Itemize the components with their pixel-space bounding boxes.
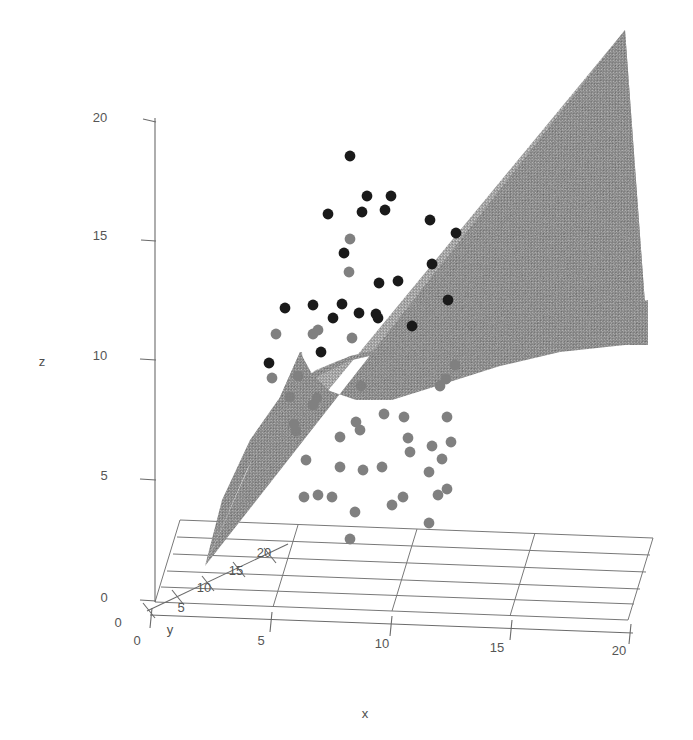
data-point [442,484,453,495]
y-tick-label: 20 [257,545,271,560]
y-tick-label: 5 [177,600,184,615]
data-point [427,259,438,270]
data-point [280,303,291,314]
data-point [398,492,409,503]
x-tick-label: 5 [257,633,264,648]
data-point [264,358,275,369]
z-tick-20 [143,119,156,122]
x-tick-5 [270,612,272,632]
x-tick-label: 20 [612,643,626,658]
data-point [291,426,302,437]
data-point [323,209,334,220]
data-point [328,313,339,324]
surface-lower-fold [205,30,648,566]
data-point [450,360,461,371]
z-tick-5 [140,479,156,480]
x-tick-label: 15 [490,640,504,655]
data-point [355,425,366,436]
data-point [424,467,435,478]
z-axis-title: z [39,354,46,369]
plot-root: 201510500510152005101520 z x y [0,0,693,740]
z-tick-0 [140,600,156,601]
data-point [437,454,448,465]
data-point [379,409,390,420]
data-point [335,432,346,443]
z-tick-label: 10 [93,348,107,363]
y-tick-label: 10 [197,580,211,595]
z-tick-15 [141,240,156,241]
x-tick-label: 0 [133,633,140,648]
data-point [371,309,382,320]
data-point [425,215,436,226]
data-point [308,329,319,340]
data-point [308,300,319,311]
data-point [354,308,365,319]
data-point [380,205,391,216]
fitted-surface [205,30,648,566]
data-point [316,347,327,358]
data-point [374,278,385,289]
x-axis-title: x [362,706,369,721]
data-point [433,490,444,501]
data-point [443,295,454,306]
data-point [301,455,312,466]
data-point [393,276,404,287]
data-point [427,441,438,452]
data-point [399,412,410,423]
data-point [345,234,356,245]
data-point [312,393,323,404]
y-axis-title: y [167,622,174,637]
x-tick-20 [629,624,631,644]
y-tick-label: 15 [229,563,243,578]
z-tick-10 [140,359,156,360]
data-point [271,329,282,340]
data-point [337,299,348,310]
z-tick-label: 20 [93,110,107,125]
data-point [299,492,310,503]
data-point [442,412,453,423]
data-point [345,151,356,162]
data-point [362,191,373,202]
data-point [357,207,368,218]
x-tick-15 [510,620,512,640]
data-point [387,500,398,511]
x-tick-0 [150,608,152,628]
data-point [345,534,356,545]
data-point [446,437,457,448]
data-point [356,381,367,392]
data-point [424,518,435,529]
z-tick-label: 0 [100,590,107,605]
data-point [335,462,346,473]
data-point [347,333,358,344]
y-tick-0 [143,603,155,618]
data-point [377,462,388,473]
x-tick-label: 10 [375,636,389,651]
z-tick-label: 15 [93,228,107,243]
data-point [327,492,338,503]
data-point [405,447,416,458]
data-point [267,373,278,384]
data-point [441,374,452,385]
data-point [358,465,369,476]
data-point [293,371,304,382]
z-tick-label: 5 [100,468,107,483]
scatter-3d-figure: 201510500510152005101520 z x y [0,0,693,740]
data-point [339,248,350,259]
data-point [403,433,414,444]
data-point [313,490,324,501]
data-point [285,392,296,403]
data-point [407,321,418,332]
data-point [386,191,397,202]
data-point [350,507,361,518]
x-tick-10 [390,616,392,636]
data-point [344,267,355,278]
y-tick-label: 0 [114,615,121,630]
data-point [451,228,462,239]
